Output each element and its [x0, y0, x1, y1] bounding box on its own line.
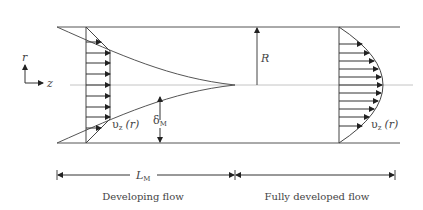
- r-axis-label: r: [22, 51, 28, 64]
- radius-label: R: [260, 52, 269, 65]
- developed-region-dimension: [236, 170, 395, 180]
- entrance-length-label: LM: [135, 169, 150, 183]
- upper-boundary-layer-curve: [57, 27, 235, 85]
- pipe-flow-diagram: r z υz(r) δM R: [0, 0, 423, 210]
- developing-velocity-profile: [86, 27, 110, 143]
- developed-velocity-label: υz(r): [371, 118, 398, 132]
- developing-velocity-label: υz(r): [112, 118, 139, 132]
- coordinate-axes-icon: [25, 65, 43, 83]
- fully-developed-flow-label: Fully developed flow: [265, 191, 370, 202]
- developing-flow-label: Developing flow: [102, 191, 184, 202]
- z-axis-label: z: [46, 77, 53, 90]
- lower-boundary-layer-curve: [57, 85, 235, 143]
